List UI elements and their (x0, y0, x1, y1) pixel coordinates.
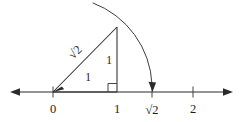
tick-label-2: 2 (190, 102, 196, 116)
axis-right-arrowhead (223, 88, 233, 95)
tick-label-root-two: √2 (145, 103, 158, 117)
sqrt2-construction-figure: 0 1 √2 2 1 1 √2 (0, 0, 243, 122)
height-length-label: 1 (106, 54, 112, 66)
right-angle-marker (108, 84, 117, 93)
compass-arc (93, 3, 156, 92)
hypotenuse-origin-arrowhead (53, 87, 64, 92)
arc-path (93, 3, 152, 84)
number-line (10, 88, 233, 95)
figure-canvas: 0 1 √2 2 1 1 √2 (0, 0, 243, 122)
tick-label-0: 0 (50, 102, 56, 116)
tick-label-1: 1 (114, 102, 120, 116)
axis-left-arrowhead (10, 88, 20, 95)
base-length-label: 1 (85, 71, 91, 83)
arc-end-arrowhead (149, 82, 157, 92)
figure-labels: 0 1 √2 2 1 1 √2 (50, 43, 196, 117)
hypotenuse-length-label: √2 (66, 43, 85, 62)
